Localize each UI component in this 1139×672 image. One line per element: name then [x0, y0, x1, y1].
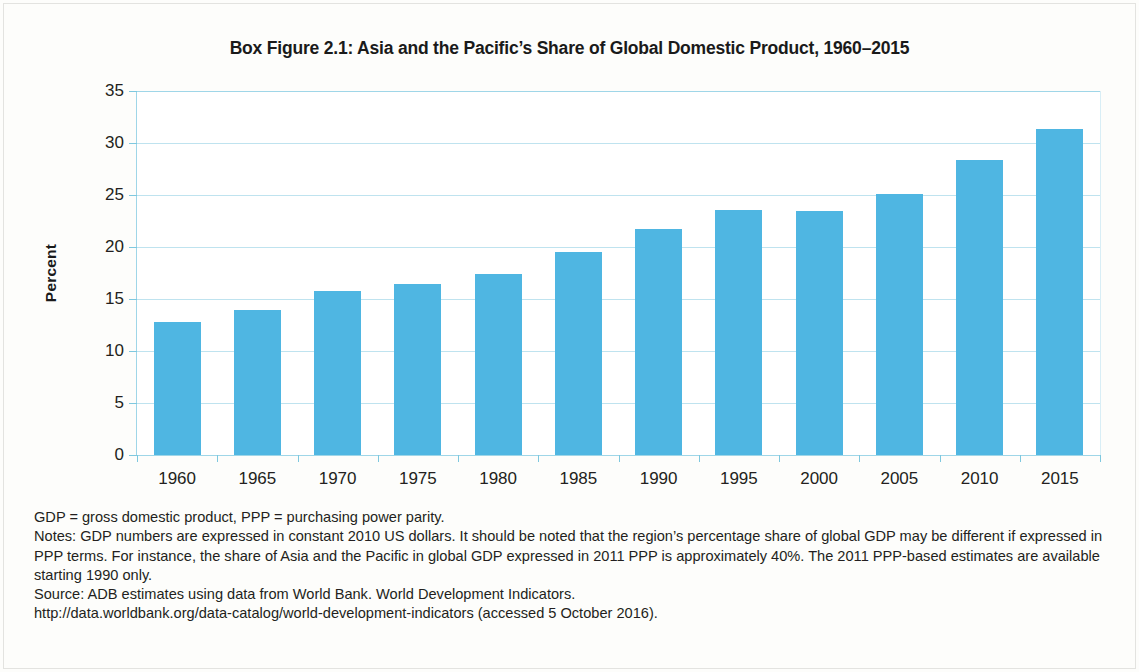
- note-source: Source: ADB estimates using data from Wo…: [34, 585, 1120, 604]
- y-tick-mark: [129, 143, 137, 144]
- x-tick-label-1980: 1980: [479, 469, 517, 489]
- note-notes: Notes: GDP numbers are expressed in cons…: [34, 527, 1120, 585]
- bar-1970: [314, 291, 361, 455]
- x-tick-label-1965: 1965: [238, 469, 276, 489]
- y-tick-mark: [129, 247, 137, 248]
- y-axis-line: [136, 91, 137, 456]
- y-tick-mark: [129, 403, 137, 404]
- y-axis-title-label: Percent: [42, 244, 60, 302]
- y-tick-label: 25: [105, 185, 124, 205]
- bar-1960: [154, 322, 201, 455]
- x-tick-label-2010: 2010: [961, 469, 999, 489]
- x-tick-label-1975: 1975: [399, 469, 437, 489]
- y-tick-label: 10: [105, 341, 124, 361]
- x-tick-label-1970: 1970: [319, 469, 357, 489]
- x-tick-mark: [1020, 455, 1021, 462]
- bar-2005: [876, 194, 923, 455]
- y-tick-label: 0: [115, 445, 124, 465]
- y-tick-label: 15: [105, 289, 124, 309]
- x-tick-mark: [378, 455, 379, 462]
- x-tick-mark: [779, 455, 780, 462]
- bar-1995: [715, 210, 762, 455]
- y-tick-mark: [129, 455, 137, 456]
- note-abbreviations: GDP = gross domestic product, PPP = purc…: [34, 508, 1120, 527]
- x-tick-mark: [940, 455, 941, 462]
- figure-notes: GDP = gross domestic product, PPP = purc…: [34, 508, 1120, 624]
- bar-2015: [1036, 129, 1083, 455]
- x-tick-mark: [137, 455, 138, 462]
- x-tick-label-2000: 2000: [800, 469, 838, 489]
- x-tick-label-1960: 1960: [158, 469, 196, 489]
- x-tick-mark: [1100, 455, 1101, 462]
- x-tick-mark: [538, 455, 539, 462]
- plot-right-border: [1100, 91, 1101, 456]
- x-tick-mark: [619, 455, 620, 462]
- x-tick-label-2005: 2005: [880, 469, 918, 489]
- y-tick-mark: [129, 299, 137, 300]
- bar-1975: [394, 284, 441, 455]
- x-tick-label-2015: 2015: [1041, 469, 1079, 489]
- bar-1980: [475, 274, 522, 455]
- y-axis-title: Percent: [40, 91, 62, 455]
- x-tick-label-1990: 1990: [640, 469, 678, 489]
- y-tick-mark: [129, 91, 137, 92]
- x-tick-mark: [458, 455, 459, 462]
- bar-2000: [796, 211, 843, 455]
- x-tick-mark: [699, 455, 700, 462]
- y-tick-mark: [129, 195, 137, 196]
- bar-1990: [635, 229, 682, 455]
- x-tick-mark: [298, 455, 299, 462]
- x-tick-label-1995: 1995: [720, 469, 758, 489]
- y-tick-label: 35: [105, 81, 124, 101]
- x-tick-mark: [217, 455, 218, 462]
- x-tick-mark: [859, 455, 860, 462]
- bar-chart: 05101520253035 1960196519701975198019851…: [137, 91, 1100, 455]
- gridline: [137, 143, 1100, 144]
- y-tick-label: 5: [115, 393, 124, 413]
- gridline: [137, 91, 1100, 92]
- x-tick-label-1985: 1985: [559, 469, 597, 489]
- figure-title: Box Figure 2.1: Asia and the Pacific’s S…: [0, 38, 1139, 59]
- y-tick-mark: [129, 351, 137, 352]
- y-tick-label: 30: [105, 133, 124, 153]
- figure-page: Box Figure 2.1: Asia and the Pacific’s S…: [0, 0, 1139, 672]
- bar-1985: [555, 252, 602, 455]
- bar-1965: [234, 310, 281, 455]
- bar-2010: [956, 160, 1003, 455]
- y-tick-label: 20: [105, 237, 124, 257]
- note-source-url: http://data.worldbank.org/data-catalog/w…: [34, 604, 1120, 623]
